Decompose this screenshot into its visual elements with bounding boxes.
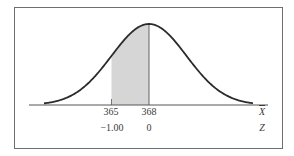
shaded-area — [112, 24, 150, 105]
z-tick-label-0: 0 — [147, 122, 152, 133]
x-tick-label-365: 365 — [104, 106, 119, 117]
x-bar-axis-label: X — [259, 106, 265, 117]
z-axis-label: Z — [259, 122, 265, 133]
x-tick-label-368: 368 — [142, 106, 157, 117]
z-tick-label-neg1: −1.00 — [100, 122, 123, 133]
